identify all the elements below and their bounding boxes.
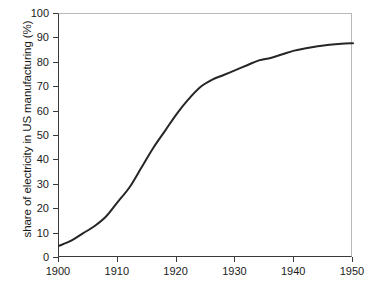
y-tick-label: 0 (19, 252, 49, 263)
y-tick-label: 100 (19, 8, 49, 19)
y-tick-label: 70 (19, 81, 49, 92)
y-tick-label: 10 (19, 228, 49, 239)
x-tick-label: 1940 (273, 266, 313, 277)
series-line (59, 43, 353, 246)
y-tick-label: 80 (19, 57, 49, 68)
y-tick-label: 50 (19, 130, 49, 141)
y-tick-label: 20 (19, 203, 49, 214)
plot-area (58, 13, 352, 257)
x-tick-label: 1910 (97, 266, 137, 277)
x-tick-label: 1900 (38, 266, 78, 277)
x-tick-label: 1920 (156, 266, 196, 277)
y-tick-label: 90 (19, 32, 49, 43)
y-tick-label: 30 (19, 179, 49, 190)
chart-figure: share of electricity in US manufacturing… (0, 0, 372, 290)
y-tick-label: 40 (19, 154, 49, 165)
x-tick-label: 1950 (332, 266, 372, 277)
x-tick-label: 1930 (214, 266, 254, 277)
data-curve (59, 14, 353, 258)
y-tick-label: 60 (19, 106, 49, 117)
